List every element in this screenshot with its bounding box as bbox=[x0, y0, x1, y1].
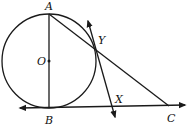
label-o: O bbox=[37, 55, 46, 68]
label-a: A bbox=[44, 0, 53, 13]
label-y: Y bbox=[98, 34, 107, 47]
label-x: X bbox=[114, 93, 124, 106]
segment-ac bbox=[49, 14, 169, 106]
tangent-line-bc bbox=[20, 105, 185, 108]
center-point-o bbox=[48, 60, 51, 63]
label-b: B bbox=[44, 114, 53, 127]
label-c: C bbox=[167, 112, 176, 125]
geometry-diagram: A O B Y X C bbox=[0, 0, 187, 127]
